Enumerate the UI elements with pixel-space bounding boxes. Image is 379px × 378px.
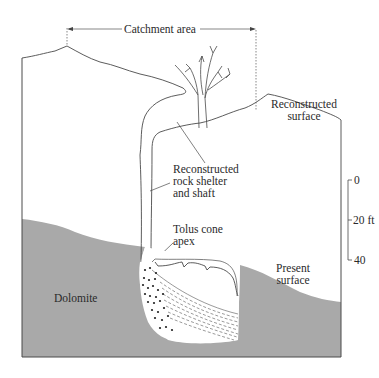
leader-rock-shelter bbox=[177, 122, 205, 163]
scale-tick-40: 40 bbox=[354, 254, 366, 266]
label-dolomite: Dolomite bbox=[54, 292, 97, 304]
arrowhead-right-icon bbox=[250, 27, 256, 31]
arrowhead-left-icon bbox=[67, 27, 73, 31]
label-catchment-area: Catchment area bbox=[124, 23, 196, 35]
label-talus-cone: Tolus cone apex bbox=[173, 223, 223, 247]
leader-shaft bbox=[150, 183, 170, 191]
label-reconstructed-surface: Reconstructed surface bbox=[268, 98, 340, 122]
cave-chamber bbox=[140, 247, 240, 343]
scale-tick-20: 20 ft bbox=[353, 214, 374, 226]
scale-tick-0: 0 bbox=[354, 174, 360, 186]
label-present-surface: Present surface bbox=[268, 262, 318, 286]
scale-bar bbox=[348, 180, 352, 260]
label-rock-shelter: Reconstructed rock shelter and shaft bbox=[173, 163, 239, 199]
